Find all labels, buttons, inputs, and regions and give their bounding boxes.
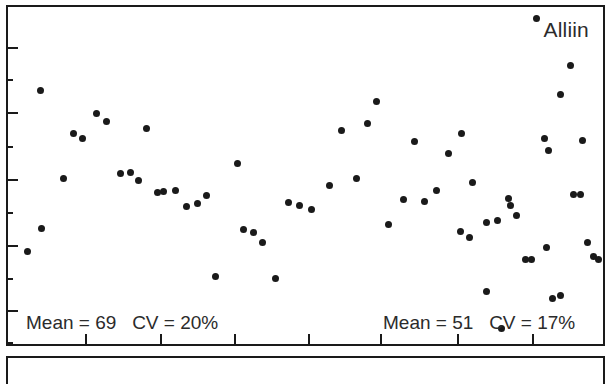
scatter-point [135, 177, 142, 184]
annotation-left-group-stats: Mean = 69 CV = 20% [26, 312, 218, 334]
scatter-plot-panel: Alliin Mean = 69 CV = 20% Mean = 51 CV =… [6, 5, 605, 346]
scatter-point [240, 226, 247, 233]
scatter-point [38, 225, 45, 232]
scatter-point [483, 219, 490, 226]
scatter-point [513, 212, 520, 219]
scatter-point [160, 188, 167, 195]
chart-title: Alliin [543, 18, 589, 42]
scatter-point [557, 91, 564, 98]
scatter-point [103, 118, 110, 125]
scatter-point [549, 295, 556, 302]
scatter-point [338, 127, 345, 134]
scatter-point [400, 196, 407, 203]
scatter-point [494, 217, 501, 224]
scatter-point [60, 175, 67, 182]
scatter-point [127, 169, 134, 176]
y-axis-major-tick [8, 47, 18, 49]
x-axis-major-tick [85, 334, 87, 344]
scatter-point [466, 234, 473, 241]
scatter-point [543, 244, 550, 251]
scatter-point [457, 228, 464, 235]
scatter-point [143, 125, 150, 132]
scatter-point [117, 170, 124, 177]
scatter-point [326, 182, 333, 189]
scatter-point [505, 195, 512, 202]
scatter-point [584, 239, 591, 246]
secondary-plot-panel [6, 356, 605, 384]
y-axis-major-tick [8, 245, 18, 247]
scatter-point [570, 191, 577, 198]
y-axis-minor-tick [8, 278, 13, 280]
scatter-point [37, 87, 44, 94]
scatter-point [533, 15, 540, 22]
scatter-point [433, 187, 440, 194]
x-axis-major-tick [308, 334, 310, 344]
scatter-point [577, 191, 584, 198]
x-axis-major-tick [380, 334, 382, 344]
scatter-point [259, 239, 266, 246]
scatter-point [483, 288, 490, 295]
scatter-point [353, 175, 360, 182]
scatter-point [24, 248, 31, 255]
scatter-point [411, 138, 418, 145]
annotation-right-group-stats: Mean = 51 CV = 17% [383, 312, 575, 334]
scatter-point [469, 179, 476, 186]
scatter-point [250, 229, 257, 236]
scatter-point [528, 256, 535, 263]
scatter-point [567, 62, 574, 69]
scatter-point [557, 292, 564, 299]
y-axis-minor-tick [8, 146, 13, 148]
scatter-point [507, 202, 514, 209]
y-axis-minor-tick [8, 79, 13, 81]
y-axis-minor-tick [8, 212, 13, 214]
scatter-point [595, 256, 602, 263]
scatter-point [445, 150, 452, 157]
y-axis-minor-tick [8, 342, 13, 344]
y-axis-major-tick [8, 112, 18, 114]
x-axis-major-tick [234, 334, 236, 344]
scatter-point [308, 206, 315, 213]
scatter-point [212, 273, 219, 280]
scatter-point [93, 110, 100, 117]
scatter-point [70, 130, 77, 137]
x-axis-major-tick [457, 334, 459, 344]
scatter-point [458, 130, 465, 137]
y-axis-major-tick [8, 179, 18, 181]
scatter-point [296, 202, 303, 209]
y-axis-major-tick [8, 310, 18, 312]
scatter-point [545, 147, 552, 154]
scatter-point [373, 98, 380, 105]
scatter-point [172, 187, 179, 194]
scatter-point [541, 135, 548, 142]
x-axis-major-tick [532, 334, 534, 344]
scatter-point [194, 200, 201, 207]
scatter-point [421, 198, 428, 205]
scatter-point [579, 137, 586, 144]
scatter-point [364, 120, 371, 127]
x-axis-major-tick [160, 334, 162, 344]
scatter-point [79, 135, 86, 142]
scatter-point [183, 203, 190, 210]
scatter-point [234, 160, 241, 167]
scatter-point [385, 221, 392, 228]
plot-area [8, 7, 603, 344]
scatter-point [272, 275, 279, 282]
scatter-point [285, 199, 292, 206]
scatter-point [203, 192, 210, 199]
